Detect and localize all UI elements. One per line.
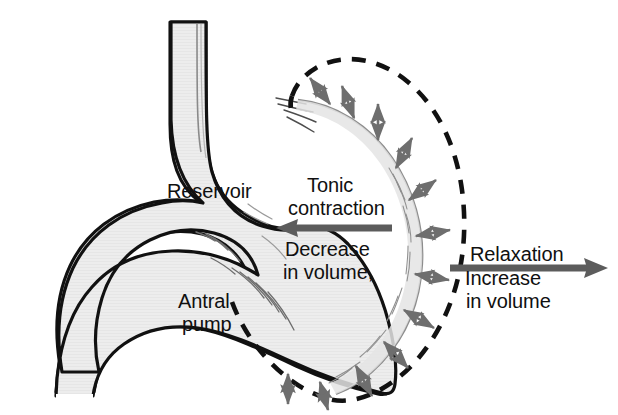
label-tonic-contraction-line2: contraction xyxy=(288,197,385,220)
radial-arrow xyxy=(396,138,412,168)
radial-arrow xyxy=(409,180,436,200)
label-increase-volume-line2: in volume xyxy=(466,290,551,313)
label-decrease-volume-line1: Decrease xyxy=(285,238,370,261)
label-increase-volume-line1: Increase xyxy=(465,267,541,290)
label-tonic-contraction-line1: Tonic xyxy=(307,174,353,197)
label-relaxation: Relaxation xyxy=(470,243,564,266)
relaxed-outline-dashed-cardia xyxy=(291,96,293,112)
label-reservoir: Reservoir xyxy=(167,180,252,203)
stomach-diagram: Reservoir Tonic contraction Decrease in … xyxy=(0,0,618,415)
radial-arrow xyxy=(310,78,330,104)
label-decrease-volume-line2: in volume, xyxy=(283,261,373,284)
label-antral-pump-line1: Antral xyxy=(178,290,230,313)
label-antral-pump-line2: pump xyxy=(182,313,232,336)
